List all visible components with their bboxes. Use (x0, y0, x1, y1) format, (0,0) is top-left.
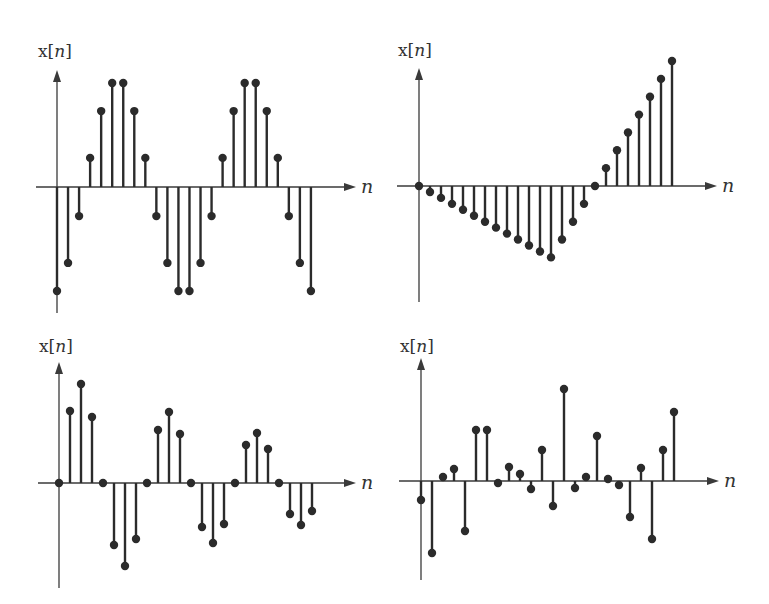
stem-sample (591, 182, 599, 190)
sample-dot (591, 182, 599, 190)
sample-dot (297, 521, 305, 529)
stem-sample (648, 481, 656, 543)
stem-sample (88, 413, 96, 483)
sample-dot (99, 479, 107, 487)
stem-sample (143, 479, 151, 487)
sample-dot (459, 206, 467, 214)
y-axis-label: x[n] (398, 40, 432, 60)
sample-dot (285, 212, 293, 220)
stem-sample (428, 481, 436, 557)
stem-sample (185, 187, 193, 295)
sample-dot (503, 229, 511, 237)
stem-sample (602, 164, 610, 186)
stem-sample (670, 408, 678, 481)
stem-sample (646, 93, 654, 186)
sample-dot (77, 380, 85, 388)
stem-sample (163, 187, 171, 267)
sample-dot (53, 287, 61, 295)
sample-dot (163, 259, 171, 267)
sample-dot (549, 502, 557, 510)
sample-dot (448, 200, 456, 208)
y-axis-arrow-icon (417, 358, 425, 370)
sample-dot (536, 247, 544, 255)
sample-dot (108, 79, 116, 87)
sample-dot (481, 218, 489, 226)
stem-sample (635, 110, 643, 186)
panel-bottom-right-random-sequence: x[n]n (399, 336, 736, 580)
sample-dot (635, 110, 643, 118)
stem-sample (549, 481, 557, 510)
sample-dot (593, 432, 601, 440)
sample-dot (110, 541, 118, 549)
sample-dot (560, 385, 568, 393)
stem-sample (439, 473, 447, 481)
stem-sample (657, 75, 665, 186)
sample-dot (637, 464, 645, 472)
stem-sample (503, 186, 511, 238)
sample-dot (505, 463, 513, 471)
stem-sample (110, 483, 118, 549)
sample-dot (626, 513, 634, 521)
sample-dot (516, 470, 524, 478)
y-axis-arrow-icon (53, 70, 61, 82)
sample-dot (582, 473, 590, 481)
sample-dot (470, 212, 478, 220)
stem-sample (252, 79, 260, 187)
stem-sample (516, 470, 524, 481)
stem-sample (108, 79, 116, 187)
sample-dot (417, 496, 425, 504)
sample-dot (187, 479, 195, 487)
sample-dot (274, 154, 282, 162)
sample-dot (569, 218, 577, 226)
sample-dot (308, 507, 316, 515)
stem-sample (263, 107, 271, 187)
sample-dot (547, 253, 555, 261)
stem-sample (75, 187, 83, 220)
x-axis-label: n (361, 471, 373, 493)
stem-sample (198, 483, 206, 531)
sample-dot (86, 154, 94, 162)
stem-sample (450, 465, 458, 481)
stem-sample (242, 441, 250, 483)
sample-dot (119, 79, 127, 87)
stem-sample (505, 463, 513, 481)
sample-dot (514, 235, 522, 243)
sample-dot (415, 182, 423, 190)
stem-sample (483, 426, 491, 481)
sample-dot (437, 194, 445, 202)
y-axis-label: x[n] (38, 41, 72, 61)
sample-dot (75, 212, 83, 220)
sample-dot (439, 473, 447, 481)
sample-dot (646, 93, 654, 101)
stem-sample (571, 481, 579, 492)
stem-sample (285, 187, 293, 220)
stem-sample (264, 445, 272, 483)
stem-sample (593, 432, 601, 481)
sample-dot (154, 426, 162, 434)
sample-dot (461, 527, 469, 535)
stem-sample (668, 57, 676, 186)
sample-dot (121, 562, 129, 570)
stem-sample (448, 186, 456, 208)
stem-sample (274, 154, 282, 187)
sample-dot (525, 241, 533, 249)
panel-top-left-sinusoid: x[n]n (36, 41, 373, 313)
sample-dot (97, 107, 105, 115)
panel-bottom-left-damped-sinusoid: x[n]n (38, 336, 373, 588)
sample-dot (450, 465, 458, 473)
sample-dot (472, 426, 480, 434)
stem-sample (296, 187, 304, 267)
stem-sample (659, 446, 667, 481)
stem-sample (275, 479, 283, 487)
sample-dot (307, 287, 315, 295)
sample-dot (571, 484, 579, 492)
stem-sample (308, 483, 316, 515)
stem-sample (297, 483, 305, 529)
stem-sample (415, 182, 423, 190)
stem-sample (176, 430, 184, 483)
stem-sample (626, 481, 634, 521)
panel-top-right-ramp: x[n]n (397, 40, 734, 302)
sample-dot (185, 287, 193, 295)
stem-sample (207, 187, 215, 220)
x-axis-arrow-icon (344, 183, 356, 191)
